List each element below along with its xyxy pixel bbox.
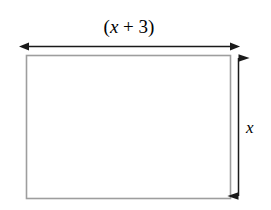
width-label-close-paren: )	[148, 16, 154, 37]
width-label-constant: 3	[139, 16, 149, 37]
geometry-figure: (x + 3) x	[0, 0, 271, 210]
width-dimension-label: (x + 3)	[0, 17, 258, 36]
width-label-operator: +	[118, 16, 138, 37]
height-dimension-label: x	[246, 119, 254, 136]
rectangle-shape	[27, 56, 231, 199]
